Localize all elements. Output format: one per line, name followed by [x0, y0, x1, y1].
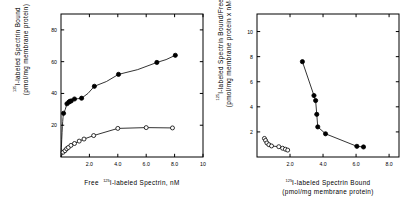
y-axis-label-line2: (pmol/mg membrane protein x nM-1) — [225, 0, 234, 115]
x-tick-label: 4.0 — [319, 161, 326, 167]
x-tick-label: 6.0 — [143, 161, 150, 167]
y-axis-label-left: 125I-labeled Spectrin Bound (pmol/mg mem… — [11, 0, 30, 115]
y-tick-label: 60 — [51, 59, 57, 65]
y-tick-label: 6 — [250, 79, 253, 85]
data-point-open — [92, 134, 96, 138]
x-tick-label: 2.0 — [86, 161, 93, 167]
x-tick-label: 8.0 — [385, 161, 392, 167]
data-point-open — [116, 126, 120, 130]
chart-panel-right: 2.04.06.08.0246810 125I-labeled Spectrin… — [209, 0, 418, 208]
data-point-filled — [355, 144, 359, 148]
data-point-open — [270, 144, 274, 148]
x-tick-label: 2.0 — [286, 161, 293, 167]
x-axis-label-superscript: 125 — [103, 178, 110, 183]
y-tick-label: 4 — [250, 104, 253, 110]
y-tick-label: 20 — [51, 122, 57, 128]
data-point-open — [72, 141, 76, 145]
data-point-open — [170, 126, 174, 130]
x-tick-label: 6.0 — [352, 161, 359, 167]
y-tick-label: 80 — [51, 27, 57, 33]
plot-frame — [61, 14, 203, 157]
x-axis-label-left: Free 125I-labeled Spectrin, nM — [61, 178, 203, 186]
data-point-filled — [72, 97, 76, 101]
x-tick-label: 8.0 — [171, 161, 178, 167]
y-axis-label-line1: I-labeled Spectrin Bound — [14, 7, 21, 85]
x-axis-label-line1: I-labeled Spectrin Bound — [292, 179, 370, 186]
saturation-binding-plot: 2.04.06.08.01020406080 — [0, 0, 209, 208]
figure-container: 2.04.06.08.01020406080 125I-labeled Spec… — [0, 0, 418, 208]
data-point-open — [286, 148, 290, 152]
data-point-filled — [316, 125, 320, 129]
x-axis-label-prefix: Free — [84, 179, 99, 186]
x-tick-label: 4.0 — [114, 161, 121, 167]
data-point-filled — [61, 111, 65, 115]
data-point-open — [77, 139, 81, 143]
x-axis-label-line2: (pmol/mg membrane protein) — [249, 187, 407, 196]
data-point-open — [82, 137, 86, 141]
x-axis-label-right: 125I-labeled Spectrin Bound (pmol/mg mem… — [249, 176, 407, 196]
x-axis-label-suffix: I-labeled Spectrin, nM — [110, 179, 180, 186]
y-axis-label-superscript: 125 — [12, 85, 17, 92]
data-point-filled — [315, 112, 319, 116]
data-point-filled — [314, 98, 318, 102]
x-tick-label: 10 — [200, 161, 206, 167]
data-point-filled — [155, 60, 159, 64]
y-axis-label-line1: I-labeled Spectrin Bound/Free — [217, 0, 224, 94]
data-point-filled — [79, 96, 83, 100]
y-axis-label-right: 125I-labeled Spectrin Bound/Free (pmol/m… — [214, 0, 233, 115]
data-point-filled — [92, 84, 96, 88]
plot-frame — [257, 14, 399, 157]
y-tick-label: 2 — [250, 129, 253, 135]
y-axis-label-superscript: 125 — [215, 94, 220, 101]
data-point-filled — [116, 72, 120, 76]
y-tick-label: 8 — [250, 54, 253, 60]
y-tick-label: 40 — [51, 90, 57, 96]
data-point-filled — [173, 53, 177, 57]
data-point-filled — [323, 132, 327, 136]
data-point-filled — [312, 93, 316, 97]
chart-panel-left: 2.04.06.08.01020406080 125I-labeled Spec… — [0, 0, 209, 208]
data-point-filled — [361, 145, 365, 149]
data-point-filled — [300, 60, 304, 64]
y-axis-label-line2: (pmol/mg membrane protein) — [22, 0, 31, 115]
y-tick-label: 10 — [247, 29, 253, 35]
data-point-open — [144, 126, 148, 130]
